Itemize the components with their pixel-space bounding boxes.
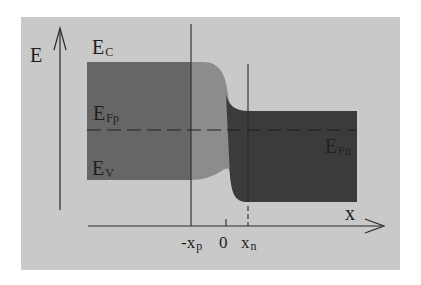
fermi-level-n-label: EFn	[325, 136, 351, 156]
tick-label-zero: 0	[219, 234, 228, 251]
band-diagram	[0, 0, 421, 285]
x-axis-label: x	[345, 203, 355, 223]
energy-axis-label: E	[30, 45, 42, 65]
fermi-level-p-label: EFp	[93, 103, 119, 123]
tick-label-xn: xn	[241, 234, 257, 251]
conduction-band-label: EC	[92, 37, 113, 57]
tick-label-neg-xp: -xp	[181, 234, 202, 251]
valence-band-label: EV	[92, 158, 114, 178]
